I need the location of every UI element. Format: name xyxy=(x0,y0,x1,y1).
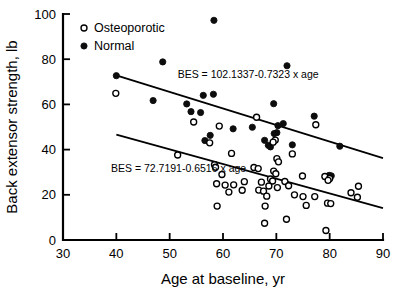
x-tick-label-30: 30 xyxy=(56,246,70,261)
x-tick-label-90: 90 xyxy=(376,246,390,261)
data-point-osteoporotic-45 xyxy=(264,193,270,199)
data-point-normal-4 xyxy=(210,91,216,97)
data-point-osteoporotic-42 xyxy=(300,194,306,200)
series-normal xyxy=(113,17,343,179)
data-point-osteoporotic-7 xyxy=(207,140,213,146)
x-tick-label-40: 40 xyxy=(109,246,123,261)
data-point-osteoporotic-1 xyxy=(254,114,260,120)
osteoporotic-fit-equation: BES = 72.7191-0.6516 x age xyxy=(111,162,246,174)
data-point-osteoporotic-40 xyxy=(355,183,361,189)
y-tick-label-80: 80 xyxy=(42,52,56,67)
y-axis-title: Back extensor strength, lb xyxy=(3,40,20,213)
x-tick-label-60: 60 xyxy=(216,246,230,261)
data-point-osteoporotic-29 xyxy=(231,182,237,188)
y-tick-label-60: 60 xyxy=(42,97,56,112)
data-point-normal-13 xyxy=(275,123,281,129)
data-point-osteoporotic-50 xyxy=(262,203,268,209)
data-point-osteoporotic-0 xyxy=(113,90,119,96)
data-point-osteoporotic-4 xyxy=(191,119,197,125)
legend-label-osteoporotic: Osteoporotic xyxy=(94,21,165,35)
data-point-osteoporotic-33 xyxy=(266,183,272,189)
x-tick-label-80: 80 xyxy=(322,246,336,261)
data-point-normal-7 xyxy=(271,101,277,107)
data-point-normal-3 xyxy=(113,73,119,79)
x-tick-label-50: 50 xyxy=(162,246,176,261)
chart-canvas: 30405060708090020406080100Age at baselin… xyxy=(0,0,398,293)
scatter-plot-figure: 30405060708090020406080100Age at baselin… xyxy=(0,0,398,293)
data-point-normal-1 xyxy=(160,59,166,65)
data-point-osteoporotic-27 xyxy=(258,179,264,185)
data-point-normal-23 xyxy=(337,143,343,149)
data-point-normal-5 xyxy=(200,92,206,98)
data-point-normal-0 xyxy=(211,17,217,23)
x-axis-title: Age at baseline, yr xyxy=(161,270,285,287)
data-point-osteoporotic-23 xyxy=(325,177,331,183)
y-tick-label-0: 0 xyxy=(49,233,56,248)
data-point-normal-22 xyxy=(289,142,295,148)
data-point-osteoporotic-12 xyxy=(275,159,281,165)
data-point-osteoporotic-9 xyxy=(229,150,235,156)
y-tick-label-40: 40 xyxy=(42,142,56,157)
data-point-osteoporotic-28 xyxy=(241,179,247,185)
data-point-osteoporotic-43 xyxy=(312,194,318,200)
x-tick-label-70: 70 xyxy=(269,246,283,261)
data-point-normal-18 xyxy=(207,132,213,138)
data-point-normal-15 xyxy=(230,126,236,132)
data-point-normal-17 xyxy=(271,130,277,136)
chart-legend: OsteoporoticNormal xyxy=(81,21,165,53)
data-point-osteoporotic-10 xyxy=(289,151,295,157)
data-point-osteoporotic-47 xyxy=(328,201,334,207)
legend-marker-normal xyxy=(81,43,87,49)
data-point-osteoporotic-18 xyxy=(273,171,279,177)
data-point-osteoporotic-30 xyxy=(222,182,228,188)
data-point-osteoporotic-49 xyxy=(214,203,220,209)
data-point-osteoporotic-8 xyxy=(175,152,181,158)
data-point-osteoporotic-16 xyxy=(255,166,261,172)
data-point-normal-9 xyxy=(188,109,194,115)
data-point-osteoporotic-39 xyxy=(348,190,354,196)
normal-fit-equation: BES = 102.1337-0.7323 x age xyxy=(178,68,319,80)
data-point-osteoporotic-32 xyxy=(286,183,292,189)
data-point-osteoporotic-31 xyxy=(214,181,220,187)
data-point-normal-10 xyxy=(198,109,204,115)
legend-marker-osteoporotic xyxy=(81,25,87,31)
data-point-normal-8 xyxy=(184,101,190,107)
y-tick-label-100: 100 xyxy=(34,7,56,22)
data-point-osteoporotic-52 xyxy=(262,220,268,226)
data-point-osteoporotic-36 xyxy=(239,187,245,193)
data-point-osteoporotic-41 xyxy=(291,192,297,198)
data-point-osteoporotic-38 xyxy=(226,189,232,195)
data-point-osteoporotic-44 xyxy=(354,194,360,200)
data-point-osteoporotic-34 xyxy=(274,185,280,191)
data-point-osteoporotic-2 xyxy=(313,122,319,128)
data-point-osteoporotic-6 xyxy=(270,139,276,145)
data-point-normal-14 xyxy=(249,124,255,130)
data-point-normal-11 xyxy=(311,113,317,119)
legend-label-normal: Normal xyxy=(94,39,134,53)
y-tick-label-20: 20 xyxy=(42,187,56,202)
data-point-osteoporotic-48 xyxy=(303,202,309,208)
data-point-osteoporotic-3 xyxy=(216,123,222,129)
data-point-normal-6 xyxy=(150,97,156,103)
data-point-osteoporotic-51 xyxy=(283,216,289,222)
data-point-osteoporotic-20 xyxy=(299,173,305,179)
data-point-osteoporotic-53 xyxy=(323,228,329,234)
